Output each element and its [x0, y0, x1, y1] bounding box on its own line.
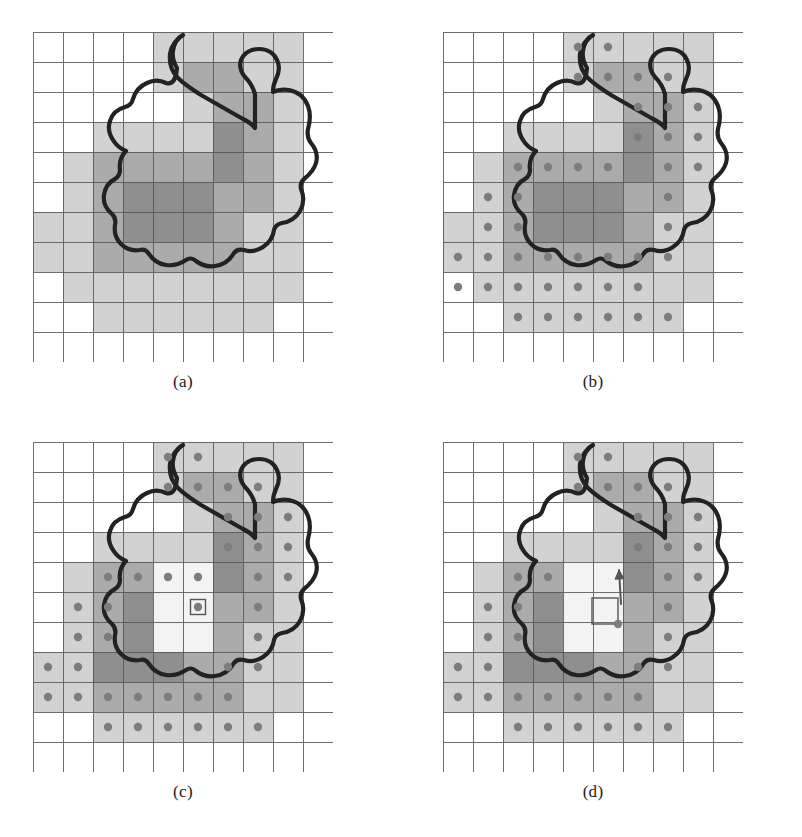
sample-dot	[164, 723, 172, 731]
grid-cell	[123, 302, 153, 332]
grid-cell	[563, 592, 593, 622]
sample-dot	[664, 483, 672, 491]
grid-cell	[683, 682, 713, 712]
panel-d-canvas	[443, 442, 743, 772]
sample-dot	[544, 723, 552, 731]
grid-cell	[623, 152, 653, 182]
grid-cell	[213, 562, 243, 592]
grid-cell	[243, 302, 273, 332]
sample-dot	[664, 663, 672, 671]
sample-dot	[604, 163, 612, 171]
sample-dot	[694, 543, 702, 551]
sample-dot	[634, 483, 642, 491]
grid-cell	[153, 592, 183, 622]
sample-dot	[574, 723, 582, 731]
grid-cell	[123, 532, 153, 562]
grid-cell	[63, 242, 93, 272]
grid-cell	[213, 212, 243, 242]
sample-dot	[664, 543, 672, 551]
grid-cell	[533, 182, 563, 212]
grid-cell	[273, 122, 303, 152]
grid-cell	[153, 182, 183, 212]
highlight-dot	[194, 603, 202, 611]
sample-dot	[104, 573, 112, 581]
sample-dot	[254, 513, 262, 521]
sample-dot	[514, 283, 522, 291]
sample-dot	[514, 633, 522, 641]
grid-cell	[63, 212, 93, 242]
grid-cell	[183, 122, 213, 152]
grid-cell	[123, 182, 153, 212]
grid-cell	[153, 532, 183, 562]
panel-a-label: (a)	[33, 372, 333, 392]
sample-dot	[74, 633, 82, 641]
sample-dot	[134, 723, 142, 731]
sample-dot	[454, 693, 462, 701]
sample-dot	[544, 693, 552, 701]
sample-dot	[134, 573, 142, 581]
grid-cell	[563, 652, 593, 682]
grid-cell	[593, 92, 623, 122]
sample-dot	[484, 253, 492, 261]
grid-cell	[243, 242, 273, 272]
grid-cell	[93, 302, 123, 332]
sample-dot	[514, 313, 522, 321]
sample-dot	[284, 513, 292, 521]
sample-dot	[664, 223, 672, 231]
grid-cell	[123, 592, 153, 622]
panel-c-label: (c)	[33, 782, 333, 802]
grid-cell	[593, 182, 623, 212]
grid-cell	[183, 622, 213, 652]
grid-cell	[273, 272, 303, 302]
grid-cell	[33, 242, 63, 272]
sample-dot	[194, 693, 202, 701]
sample-dot	[194, 483, 202, 491]
sample-dot	[544, 573, 552, 581]
grid-cell	[683, 242, 713, 272]
sample-dot	[634, 283, 642, 291]
grid-cell	[563, 212, 593, 242]
sample-dot	[664, 603, 672, 611]
sample-dot	[284, 543, 292, 551]
sample-dot	[604, 313, 612, 321]
sample-dot	[604, 483, 612, 491]
sample-dot	[694, 133, 702, 141]
grid-cell	[593, 122, 623, 152]
grid-cell	[153, 212, 183, 242]
grid-cell	[153, 302, 183, 332]
grid-cell	[63, 182, 93, 212]
highlight-dot	[614, 620, 622, 628]
grid-cell	[123, 272, 153, 302]
grid-cell	[273, 242, 303, 272]
panel-c-canvas	[33, 442, 333, 772]
sample-dot	[454, 253, 462, 261]
sample-dot	[194, 723, 202, 731]
grid-cell	[623, 562, 653, 592]
sample-dot	[544, 253, 552, 261]
sample-dot	[484, 193, 492, 201]
grid-cell	[243, 212, 273, 242]
sample-dot	[104, 723, 112, 731]
grid-cell	[683, 592, 713, 622]
panel-b: (b)	[443, 32, 743, 362]
grid-cell	[273, 92, 303, 122]
sample-dot	[254, 633, 262, 641]
sample-dot	[634, 663, 642, 671]
sample-dot	[574, 313, 582, 321]
grid-cell	[273, 652, 303, 682]
sample-dot	[514, 253, 522, 261]
grid-cell	[183, 92, 213, 122]
grid-cell	[623, 592, 653, 622]
grid-cell	[213, 272, 243, 302]
grid-cell	[623, 442, 653, 472]
sample-dot	[574, 73, 582, 81]
grid-cell	[213, 592, 243, 622]
grid-cell	[273, 592, 303, 622]
sample-dot	[574, 483, 582, 491]
grid-cell	[653, 272, 683, 302]
sample-dot	[604, 453, 612, 461]
sample-dot	[544, 283, 552, 291]
grid-cell	[563, 122, 593, 152]
grid-cell	[683, 272, 713, 302]
sample-dot	[454, 283, 462, 291]
